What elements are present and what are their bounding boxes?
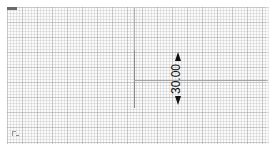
dimension-value[interactable]: 30.00 (169, 59, 183, 99)
origin-tick (16, 135, 19, 136)
drawing-canvas[interactable] (7, 7, 269, 144)
view-badge-icon (7, 7, 17, 10)
canvas-edge-fade (265, 0, 275, 150)
horizontal-construction-line[interactable] (134, 80, 268, 81)
vertical-edge-line[interactable] (134, 50, 135, 108)
